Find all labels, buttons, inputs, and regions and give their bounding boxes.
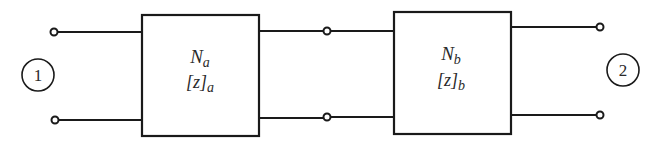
network-b-matrix-main: [z]: [437, 70, 458, 90]
terminal-port1-top: [51, 29, 58, 36]
port-2-label: 2: [619, 61, 628, 80]
terminal-port2-bottom: [597, 112, 604, 119]
network-b-name-sub: b: [454, 52, 461, 67]
terminal-port1-bottom: [52, 117, 59, 124]
network-a-matrix-main: [z]: [186, 72, 207, 92]
diagram-svg: 1 2 Na [z]a Nb [z]b: [0, 0, 660, 147]
port-1-label: 1: [34, 66, 43, 85]
network-b-matrix-sub: b: [458, 78, 465, 93]
terminal-port2-top: [597, 24, 604, 31]
network-a-matrix-sub: a: [207, 80, 214, 95]
terminal-mid-top: [324, 28, 331, 35]
cascade-network-diagram: 1 2 Na [z]a Nb [z]b: [0, 0, 660, 147]
terminal-mid-bottom: [324, 114, 331, 121]
network-a-name-sub: a: [203, 55, 210, 70]
